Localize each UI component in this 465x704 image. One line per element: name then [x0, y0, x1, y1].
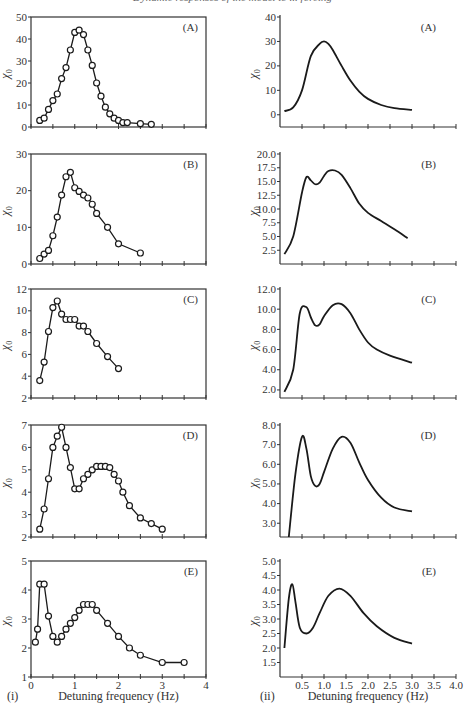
data-point-marker — [63, 65, 69, 71]
y-tick-label: 10 — [16, 221, 28, 233]
y-tick-label: 17.5 — [257, 161, 277, 173]
data-point-marker — [37, 378, 43, 384]
y-tick-label: 10 — [16, 304, 28, 316]
data-point-marker — [41, 359, 47, 365]
y-tick-label: 8 — [22, 326, 28, 338]
data-point-marker — [67, 47, 73, 53]
data-point-marker — [59, 633, 65, 639]
data-line — [40, 427, 163, 529]
model-curve — [284, 584, 412, 648]
y-axis-label: χ0 — [246, 206, 262, 216]
y-axis-label: χ0 — [0, 341, 14, 351]
panel-label: (A) — [421, 21, 437, 34]
data-point-marker — [50, 233, 56, 239]
panel-label: (B) — [183, 158, 198, 171]
data-point-marker — [94, 607, 100, 613]
x-tick-label: 4.0 — [449, 679, 463, 691]
data-point-marker — [41, 506, 47, 512]
y-tick-label: 4.0 — [262, 363, 276, 375]
figure-canvas: 01020304050χ0(A)0102030χ0(B)24681012χ0(C… — [0, 0, 465, 704]
panel-label: (A) — [183, 21, 199, 34]
y-tick-label: 4 — [22, 370, 28, 382]
model-curve — [284, 303, 412, 392]
y-tick-label: 30 — [16, 148, 28, 160]
data-point-marker — [63, 626, 69, 632]
data-point-marker — [94, 210, 100, 216]
data-point-marker — [46, 613, 52, 619]
y-tick-label: 0 — [22, 121, 28, 133]
column-label: (i) — [7, 689, 18, 703]
y-tick-label: 4.5 — [262, 569, 276, 581]
data-point-marker — [46, 106, 52, 112]
data-point-marker — [85, 195, 91, 201]
data-point-marker — [94, 80, 100, 86]
y-tick-label: 2 — [22, 392, 28, 404]
y-axis-label: χ0 — [0, 616, 14, 626]
y-tick-label: 4 — [22, 486, 28, 498]
y-tick-label: 15.0 — [257, 175, 277, 187]
y-tick-label: 30 — [16, 55, 28, 67]
y-tick-label: 5 — [22, 555, 28, 567]
data-point-marker — [50, 444, 56, 450]
data-point-marker — [126, 503, 132, 509]
data-point-marker — [137, 121, 143, 127]
y-axis-label: χ0 — [246, 616, 262, 626]
y-tick-label: 10.0 — [257, 303, 277, 315]
data-point-marker — [105, 224, 111, 230]
panel-i-A: 01020304050χ0(A) — [0, 11, 206, 133]
column-label: (ii) — [260, 689, 275, 703]
model-curve — [284, 41, 412, 111]
y-tick-label: 20.0 — [257, 148, 277, 160]
y-tick-label: 50 — [16, 11, 28, 23]
y-tick-label: 5.0 — [262, 477, 276, 489]
model-curve — [289, 436, 412, 537]
data-point-marker — [46, 247, 52, 253]
plot-frame — [31, 154, 206, 264]
data-point-marker — [105, 354, 111, 360]
data-point-marker — [181, 660, 187, 666]
data-point-marker — [89, 62, 95, 68]
y-tick-label: 40 — [265, 11, 277, 23]
y-tick-label: 10 — [16, 99, 28, 111]
data-point-marker — [148, 121, 154, 127]
y-tick-label: 2 — [22, 642, 28, 654]
data-point-marker — [54, 298, 60, 304]
data-point-marker — [72, 615, 78, 621]
data-point-marker — [41, 581, 47, 587]
data-point-marker — [35, 626, 41, 632]
data-point-marker — [67, 465, 73, 471]
y-tick-label: 0 — [271, 108, 277, 120]
data-point-marker — [94, 341, 100, 347]
y-axis-label: χ0 — [0, 478, 14, 488]
data-point-marker — [46, 329, 52, 335]
data-point-marker — [46, 476, 52, 482]
data-point-marker — [116, 366, 122, 372]
y-tick-label: 3.0 — [262, 517, 276, 529]
y-tick-label: 7.0 — [262, 438, 276, 450]
panel-i-B: 0102030χ0(B) — [0, 148, 206, 270]
x-axis-title: Detuning frequency (Hz) — [308, 689, 429, 703]
y-axis-label: χ0 — [246, 478, 262, 488]
y-axis-label: χ0 — [246, 69, 262, 79]
data-point-marker — [102, 104, 108, 110]
data-point-marker — [67, 620, 73, 626]
data-point-marker — [159, 660, 165, 666]
y-tick-label: 6 — [22, 348, 28, 360]
plot-frame — [31, 17, 206, 127]
y-tick-label: 20 — [16, 184, 28, 196]
panel-ii-B: 2.55.07.510.012.515.017.520.0χ0(B) — [246, 148, 456, 267]
data-point-marker — [81, 32, 87, 38]
y-tick-label: 2.0 — [262, 642, 276, 654]
y-tick-label: 2.0 — [262, 383, 276, 395]
y-axis-label: χ0 — [0, 206, 14, 216]
x-tick-label: 4 — [203, 679, 209, 691]
panel-label: (C) — [421, 293, 436, 306]
y-tick-label: 4.0 — [262, 584, 276, 596]
y-tick-label: 7 — [22, 419, 28, 431]
y-tick-label: 12.0 — [257, 283, 277, 295]
y-tick-label: 4.0 — [262, 497, 276, 509]
data-point-marker — [59, 424, 65, 430]
data-point-marker — [54, 639, 60, 645]
y-tick-label: 10 — [265, 84, 277, 96]
data-point-marker — [116, 241, 122, 247]
